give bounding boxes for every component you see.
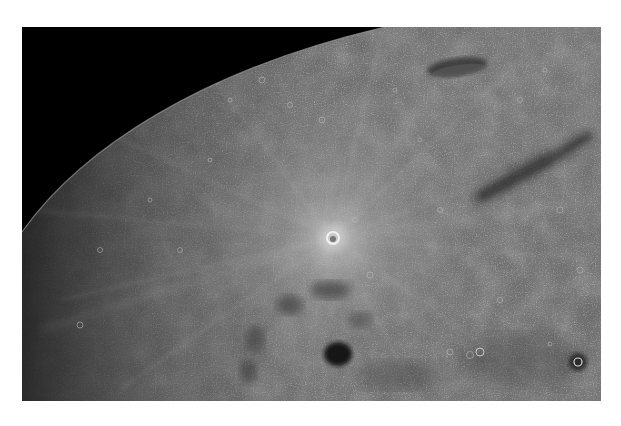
- lunar-surface-photo: Oblique photograph of the lunar surface …: [22, 27, 601, 401]
- small-dark-crater: [569, 353, 587, 371]
- lunar-surface-illustration: [22, 27, 601, 401]
- rayed-crater: [319, 224, 347, 252]
- page: Oblique photograph of the lunar surface …: [0, 0, 621, 426]
